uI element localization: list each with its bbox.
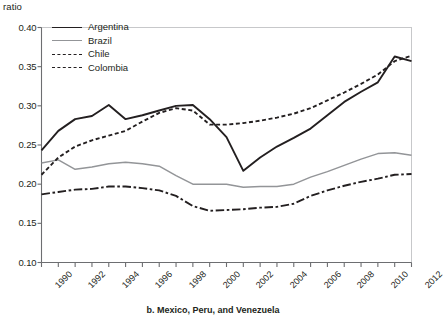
y-axis-title: ratio: [3, 1, 22, 12]
series-line-colombia: [42, 174, 412, 211]
legend-line-colombia-icon: [52, 61, 82, 73]
series-line-brazil: [42, 153, 412, 187]
legend-item-brazil: Brazil: [52, 34, 157, 48]
legend-line-chile-icon: [52, 48, 82, 60]
y-tick-label: 0.25: [7, 139, 37, 150]
legend-item-argentina: Argentina: [52, 20, 157, 34]
y-tick-label: 0.35: [7, 61, 37, 72]
legend-label-colombia: Colombia: [82, 62, 128, 73]
y-tick-label: 0.30: [7, 100, 37, 111]
figure-caption: b. Mexico, Peru, and Venezuela: [0, 305, 426, 315]
chart-legend: Argentina Brazil Chile Colombia: [52, 20, 157, 74]
y-tick-label: 0.20: [7, 178, 37, 189]
legend-label-brazil: Brazil: [82, 35, 112, 46]
legend-line-argentina-icon: [52, 21, 82, 33]
legend-item-colombia: Colombia: [52, 61, 157, 75]
y-tick-label: 0.10: [7, 257, 37, 268]
y-tick-label: 0.40: [7, 22, 37, 33]
legend-label-chile: Chile: [82, 48, 110, 59]
y-tick-label: 0.15: [7, 217, 37, 228]
legend-item-chile: Chile: [52, 47, 157, 61]
legend-line-brazil-icon: [52, 34, 82, 46]
legend-label-argentina: Argentina: [82, 21, 129, 32]
